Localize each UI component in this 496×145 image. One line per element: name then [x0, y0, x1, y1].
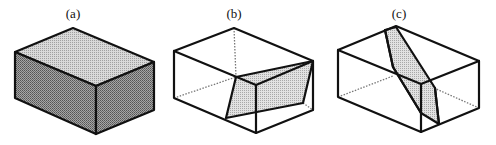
hidden-edge	[434, 88, 479, 108]
block-cut-diagram: (a) (b) (c)	[0, 0, 496, 145]
hidden-edge	[303, 103, 313, 110]
cut-plane	[226, 61, 313, 118]
panel-label-c: (c)	[392, 6, 406, 21]
hidden-edge	[234, 28, 236, 77]
hidden-edge	[338, 76, 393, 97]
panel-b: (b)	[174, 6, 313, 133]
panel-c: (c)	[338, 6, 479, 132]
hidden-edge	[174, 77, 236, 98]
panel-label-b: (b)	[226, 6, 241, 21]
panel-label-a: (a)	[66, 6, 80, 21]
panel-a: (a)	[15, 6, 154, 134]
